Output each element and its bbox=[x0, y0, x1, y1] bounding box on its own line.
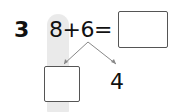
decomposition-right-value: 4 bbox=[110, 70, 124, 94]
decomposition-branch-lines bbox=[0, 0, 178, 112]
decomposition-left-box[interactable] bbox=[44, 66, 80, 102]
